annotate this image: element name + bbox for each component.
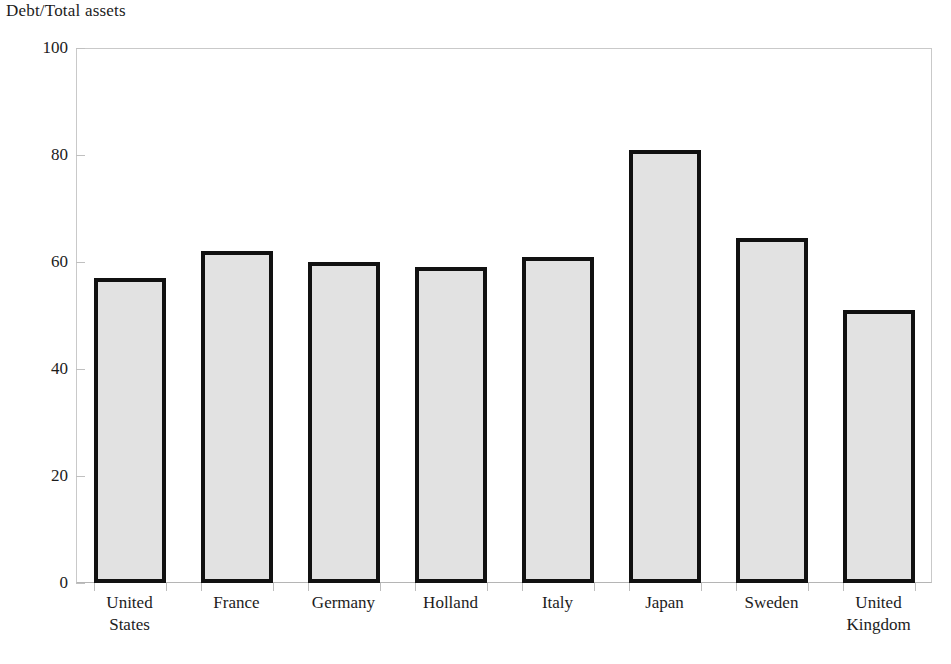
x-axis-tick [273,583,274,591]
bar [94,278,166,583]
x-axis-tick [94,583,95,591]
x-axis-tick [166,583,167,591]
x-axis-tick [380,583,381,591]
bar-chart: Debt/Total assets 020406080100 United St… [0,0,951,664]
y-axis-tick [76,155,85,156]
y-axis-tick-label: 20 [0,466,68,486]
bar [201,251,273,583]
bar [415,267,487,583]
x-axis-category-label: United States [76,592,183,636]
x-axis-tick [843,583,844,591]
y-axis-tick [76,583,85,584]
y-axis-tick-label: 0 [0,573,68,593]
x-axis-category-label: Japan [611,592,718,614]
x-axis-tick [701,583,702,591]
x-axis-tick [808,583,809,591]
x-axis-tick [522,583,523,591]
y-axis-tick [76,369,85,370]
y-axis-tick-label: 60 [0,252,68,272]
bar [736,238,808,583]
x-axis-category-label: Holland [397,592,504,614]
x-axis-tick [415,583,416,591]
x-axis-tick [487,583,488,591]
x-axis-tick [915,583,916,591]
x-axis-tick [594,583,595,591]
bar [629,150,701,583]
y-axis-tick-label: 80 [0,145,68,165]
y-axis-tick [76,48,85,49]
y-axis-tick [76,262,85,263]
chart-title: Debt/Total assets [6,1,126,21]
x-axis-category-label: Germany [290,592,397,614]
y-axis-tick-label: 100 [0,38,68,58]
y-axis-tick-label: 40 [0,359,68,379]
x-axis-category-label: Sweden [718,592,825,614]
x-axis-tick [629,583,630,591]
y-axis-tick [76,476,85,477]
bar [522,257,594,583]
bar [308,262,380,583]
x-axis-category-label: United Kingdom [825,592,932,636]
x-axis-tick [736,583,737,591]
x-axis-tick [308,583,309,591]
bar [843,310,915,583]
x-axis-tick [201,583,202,591]
x-axis-category-label: Italy [504,592,611,614]
x-axis-category-label: France [183,592,290,614]
